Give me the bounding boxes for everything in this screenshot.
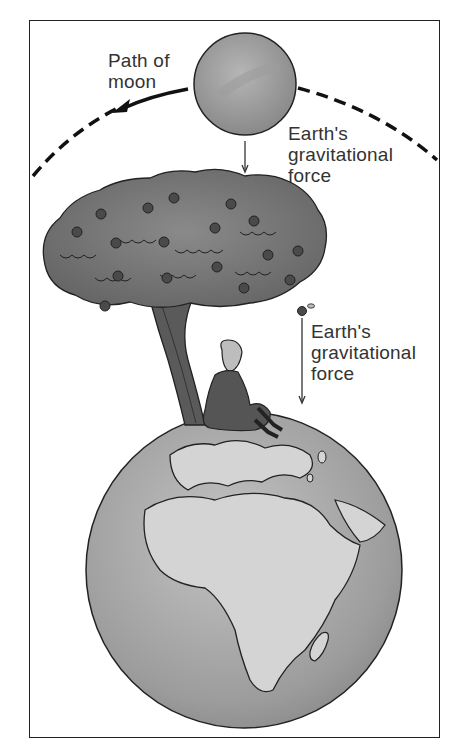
label-line: Earth's (311, 321, 416, 342)
apple-gravitational-force-label: Earth's gravitational force (311, 321, 416, 384)
person-newton (203, 340, 282, 437)
moon-gravitational-force-label: Earth's gravitational force (288, 123, 393, 186)
label-line: gravitational (311, 342, 416, 363)
label-line: Path of (108, 50, 170, 71)
label-line: gravitational (288, 144, 393, 165)
label-line: Earth's (288, 123, 393, 144)
tree-canopy (43, 169, 326, 311)
tree-trunk (150, 300, 205, 425)
label-line: moon (108, 71, 170, 92)
label-line: force (288, 165, 393, 186)
path-of-moon-label: Path of moon (108, 50, 170, 92)
earth (86, 412, 402, 728)
moon (194, 33, 296, 135)
falling-apple (298, 304, 315, 316)
label-line: force (311, 363, 416, 384)
